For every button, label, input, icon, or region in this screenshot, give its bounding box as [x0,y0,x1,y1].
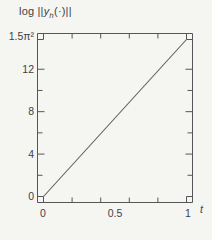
y-tick-label-top: 1.5π² [0,31,34,42]
x-axis-label: t [200,204,203,215]
x-tick-label-0: 0 [28,208,58,219]
y-tick-label-0: 0 [0,191,34,202]
data-line [44,40,187,197]
x-tick-label-1: 1 [173,208,203,219]
y-tick-label-4: 4 [0,149,34,160]
chart-figure: log ||yh(·)|| 1.5π² 12 8 4 0 0 0.5 1 t [0,0,212,240]
y-tick-label-12: 12 [0,64,34,75]
x-tick-label-0p5: 0.5 [100,208,130,219]
y-tick-label-8: 8 [0,106,34,117]
